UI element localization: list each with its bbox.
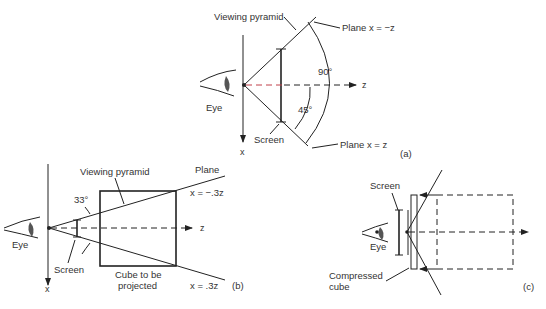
eye-icon xyxy=(362,223,388,242)
viewing-pyramid-label: Viewing pyramid xyxy=(214,11,284,22)
pyramid-edge-bottom xyxy=(407,232,441,295)
angle-arc-90 xyxy=(306,22,330,143)
angle-45-label: 45° xyxy=(298,104,313,115)
screen-label: Screen xyxy=(254,134,284,145)
pyramid-edge-top xyxy=(244,17,316,85)
panel-a: Eye x z 90° 45° Viewing pyramid Plane x … xyxy=(200,11,412,159)
compressed-cube-label-line2: cube xyxy=(329,281,350,292)
plane-label: Plane xyxy=(195,164,219,175)
compressed-cube-label-line1: Compressed xyxy=(329,270,383,281)
plane-top-label: Plane x = −z xyxy=(342,22,395,33)
cube-label-line1: Cube to be xyxy=(115,269,161,280)
panel-b-tag: (b) xyxy=(232,280,244,291)
z-axis-label: z xyxy=(362,80,367,90)
plane-bottom-label: Plane x = z xyxy=(340,139,388,150)
eye-label: Eye xyxy=(12,239,28,250)
plane-top-label: x = −.3z xyxy=(190,187,224,198)
panel-c: Eye Screen Compressed cube (c) xyxy=(329,170,534,295)
panel-c-tag: (c) xyxy=(523,281,534,292)
panel-b: Eye x z 33° Viewing pyramid Plane x = −.… xyxy=(4,164,244,294)
cube-label-line2: projected xyxy=(118,280,157,291)
eye-icon xyxy=(4,217,40,238)
angle-90-label: 90° xyxy=(318,66,333,77)
plane-bottom-label: x = .3z xyxy=(190,280,218,291)
x-axis-label: x xyxy=(45,284,50,294)
perspective-projection-diagram: Eye x z 90° 45° Viewing pyramid Plane x … xyxy=(0,0,546,309)
panel-a-tag: (a) xyxy=(400,148,412,159)
eye-icon xyxy=(200,70,236,96)
screen-label: Screen xyxy=(370,180,400,191)
eye-label: Eye xyxy=(370,241,386,252)
z-axis-label: z xyxy=(200,223,205,233)
viewing-pyramid-label: Viewing pyramid xyxy=(80,166,150,177)
x-axis-label: x xyxy=(240,147,245,157)
eye-label: Eye xyxy=(206,102,222,113)
screen-label: Screen xyxy=(54,264,84,275)
angle-33-label: 33° xyxy=(74,194,89,205)
